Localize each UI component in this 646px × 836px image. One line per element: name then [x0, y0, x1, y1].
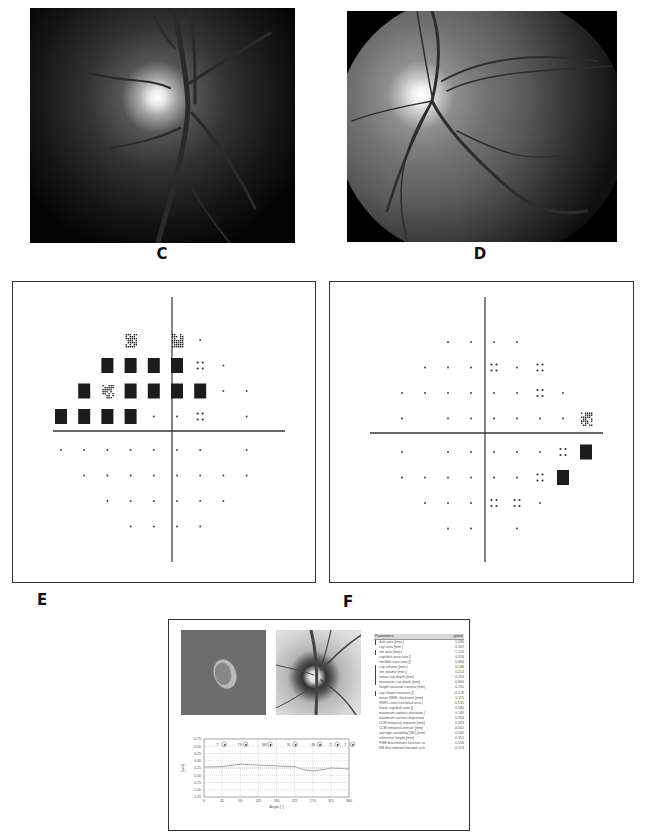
normal-point	[199, 526, 201, 528]
visual-field-f	[329, 281, 634, 583]
severe-defect-symbol	[171, 358, 183, 373]
normal-point	[493, 418, 495, 420]
retinal-vessels	[30, 8, 295, 243]
fundus-photo-c	[30, 8, 295, 243]
normal-point	[470, 502, 472, 504]
normal-point	[401, 451, 403, 453]
normal-point	[493, 477, 495, 479]
normal-point	[447, 418, 449, 420]
normal-point	[516, 392, 518, 394]
x-tick-label: 225	[292, 799, 298, 803]
normal-point	[470, 392, 472, 394]
normal-point	[199, 475, 201, 477]
normal-point	[447, 528, 449, 530]
normal-point	[246, 416, 248, 418]
parameter-value: -0.574	[454, 746, 464, 751]
severe-defect-symbol	[557, 470, 569, 485]
y-tick-label: 0.25	[194, 752, 201, 756]
moderate-defect-symbol	[126, 334, 137, 347]
severe-defect-symbol	[125, 358, 137, 373]
normal-point	[199, 339, 201, 341]
normal-point	[106, 475, 108, 477]
normal-point	[516, 341, 518, 343]
y-tick-label: 0.75	[194, 781, 201, 785]
normal-point	[470, 451, 472, 453]
mild-defect-symbol	[513, 499, 520, 507]
normal-point	[470, 418, 472, 420]
x-tick-label: 0	[203, 799, 205, 803]
normal-point	[424, 477, 426, 479]
normal-point	[222, 475, 224, 477]
normal-point	[222, 390, 224, 392]
sector-label: NS	[262, 743, 268, 747]
normal-point	[199, 500, 201, 502]
header-parameters: Parameters	[375, 634, 394, 639]
normal-point	[516, 477, 518, 479]
normal-point	[493, 341, 495, 343]
normal-point	[153, 449, 155, 451]
panel-label-e: E	[27, 591, 57, 609]
normal-point	[176, 416, 178, 418]
y-tick-label: 0.00	[194, 759, 201, 763]
normal-point	[447, 367, 449, 369]
severe-defect-symbol	[55, 409, 67, 424]
normal-point	[130, 526, 132, 528]
normal-point	[516, 528, 518, 530]
severe-defect-symbol	[148, 358, 160, 373]
normal-point	[222, 500, 224, 502]
normal-point	[176, 449, 178, 451]
normal-point	[246, 390, 248, 392]
y-tick-label: 1.00	[194, 788, 201, 792]
topography-image	[181, 630, 266, 715]
normal-point	[106, 449, 108, 451]
parameter-name: RB discriminant function valu	[379, 746, 425, 751]
y-tick-label: 0.75	[194, 737, 201, 741]
normal-point	[176, 500, 178, 502]
normal-point	[447, 392, 449, 394]
header-global: global	[453, 634, 463, 639]
normal-point	[222, 365, 224, 367]
normal-point	[153, 416, 155, 418]
normal-point	[447, 341, 449, 343]
mild-defect-symbol	[490, 363, 497, 371]
normal-point	[401, 477, 403, 479]
normal-point	[470, 528, 472, 530]
table-row: RB discriminant function valu-0.574	[374, 746, 464, 751]
x-tick-label: 90	[238, 799, 242, 803]
normal-point	[106, 500, 108, 502]
severe-defect-symbol	[194, 384, 206, 399]
severe-defect-symbol	[171, 384, 183, 399]
normal-point	[130, 449, 132, 451]
normal-point	[447, 451, 449, 453]
normal-point	[153, 500, 155, 502]
retinal-vessels	[276, 630, 361, 715]
normal-point	[401, 418, 403, 420]
normal-point	[539, 451, 541, 453]
y-tick-label: 1.25	[194, 795, 201, 799]
normal-point	[470, 477, 472, 479]
normal-point	[447, 477, 449, 479]
normal-point	[539, 502, 541, 504]
severe-defect-symbol	[78, 384, 90, 399]
x-tick-label: 180	[274, 799, 280, 803]
normal-point	[83, 475, 85, 477]
moderate-defect-symbol	[172, 334, 183, 347]
x-tick-label: 45	[220, 799, 224, 803]
normal-point	[447, 502, 449, 504]
normal-point	[424, 502, 426, 504]
y-tick-label: 0.25	[194, 766, 201, 770]
visual-field-e	[12, 281, 316, 583]
severe-defect-symbol	[101, 409, 113, 424]
mild-defect-symbol	[536, 389, 543, 397]
visual-field-plot-e	[13, 282, 315, 582]
normal-point	[562, 418, 564, 420]
visual-field-plot-f	[330, 282, 633, 582]
hrt-report: Parameters global disk area [mm²]1.636cu…	[168, 619, 470, 831]
normal-point	[493, 392, 495, 394]
y-tick-label: 0.50	[194, 745, 201, 749]
normal-point	[470, 341, 472, 343]
sector-label: TI	[329, 743, 332, 747]
severe-defect-symbol	[101, 358, 113, 373]
y-tick-label: 0.50	[194, 774, 201, 778]
line-chart: 0.750.500.250.000.250.500.751.001.250459…	[174, 734, 359, 816]
